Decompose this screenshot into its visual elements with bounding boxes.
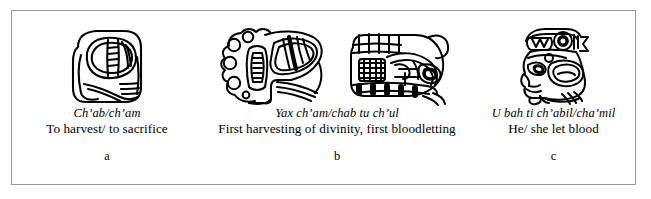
- caption-b-maya: Yax ch’am/chab tu ch’ul: [218, 107, 455, 121]
- maya-glyph-chab-cham-icon: [68, 27, 146, 107]
- panel-columns: Ch’ab/ch’am To harvest/ to sacrifice a: [12, 11, 635, 184]
- caption-a-gloss: To harvest/ to sacrifice: [46, 122, 167, 136]
- caption-b-gloss: First harvesting of divinity, first bloo…: [218, 122, 455, 136]
- glyph-area-b: [219, 11, 455, 107]
- panel-letter-c: c: [551, 149, 557, 164]
- caption-a: Ch’ab/ch’am To harvest/ to sacrifice: [46, 107, 167, 136]
- figure-panel-b: Yax ch’am/chab tu ch’ul First harvesting…: [202, 11, 472, 184]
- glyph-area-c: [516, 11, 592, 107]
- glyph-area-a: [68, 11, 146, 107]
- caption-c-maya: U bah ti ch’abil/cha’mil: [492, 107, 616, 121]
- caption-b: Yax ch’am/chab tu ch’ul First harvesting…: [218, 107, 455, 136]
- panel-letter-b: b: [334, 149, 340, 164]
- figure-panel-a: Ch’ab/ch’am To harvest/ to sacrifice a: [12, 11, 202, 184]
- figure-panel-c: U bah ti ch’abil/cha’mil He/ she let blo…: [472, 11, 635, 184]
- maya-glyph-tu-chul-icon: [345, 25, 455, 107]
- caption-c: U bah ti ch’abil/cha’mil He/ she let blo…: [492, 107, 616, 136]
- maya-glyph-u-bah-ti-chabil-icon: [516, 25, 592, 107]
- maya-glyph-yax-cham-chab-icon: [219, 25, 327, 107]
- caption-c-gloss: He/ she let blood: [492, 122, 616, 136]
- figure-panel: Ch’ab/ch’am To harvest/ to sacrifice a: [11, 10, 636, 185]
- panel-letter-a: a: [104, 149, 110, 164]
- caption-a-maya: Ch’ab/ch’am: [46, 107, 167, 121]
